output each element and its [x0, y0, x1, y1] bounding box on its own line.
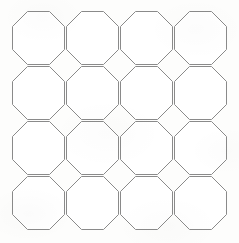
- octagon-tile: [67, 177, 119, 230]
- octagon-tile: [121, 177, 173, 230]
- octagon-tile: [13, 122, 65, 175]
- octagon-tile: [121, 67, 173, 120]
- octagon-tile: [67, 12, 119, 65]
- octagon-tile: [13, 177, 65, 230]
- octagon-tile: [175, 67, 227, 120]
- octagon-tile: [13, 67, 65, 120]
- octagon-tile: [175, 177, 227, 230]
- octagon-tile: [175, 12, 227, 65]
- octagon-tile: [13, 12, 65, 65]
- octagon-tile: [67, 67, 119, 120]
- tiling-canvas: [0, 0, 239, 243]
- octagon-tiling-figure: [0, 0, 239, 243]
- octagon-tile: [121, 122, 173, 175]
- octagon-tile: [67, 122, 119, 175]
- octagon-tile: [175, 122, 227, 175]
- octagon-group: [13, 12, 227, 230]
- octagon-tile: [121, 12, 173, 65]
